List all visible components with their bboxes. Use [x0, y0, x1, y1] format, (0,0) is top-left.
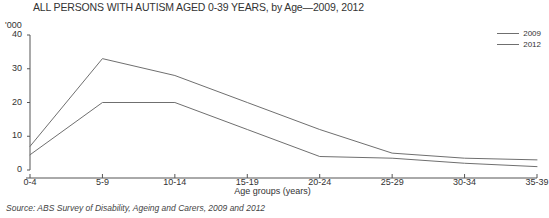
y-axis-tick-label: 30 [4, 63, 22, 73]
chart-series-lines [30, 59, 537, 167]
y-axis-tick-label: 0 [4, 164, 22, 174]
series-line-2012 [30, 103, 537, 167]
y-axis-tick-label: 20 [4, 97, 22, 107]
y-axis-tick-label: 40 [4, 29, 22, 39]
series-line-2009 [30, 59, 537, 160]
y-axis-tick-label: 10 [4, 130, 22, 140]
x-axis-title: Age groups (years) [0, 186, 545, 196]
chart-axes [26, 35, 537, 178]
source-note: Source: ABS Survey of Disability, Ageing… [6, 203, 265, 213]
